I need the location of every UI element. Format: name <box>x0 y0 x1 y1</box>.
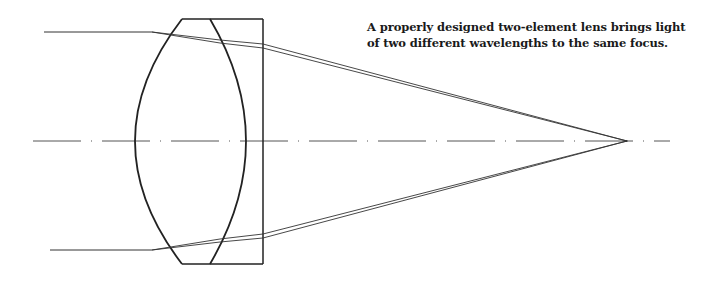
diagram-caption: A properly designed two-element lens bri… <box>367 19 687 51</box>
focus-point <box>626 140 628 142</box>
refracted-rays-bottom <box>152 141 627 250</box>
